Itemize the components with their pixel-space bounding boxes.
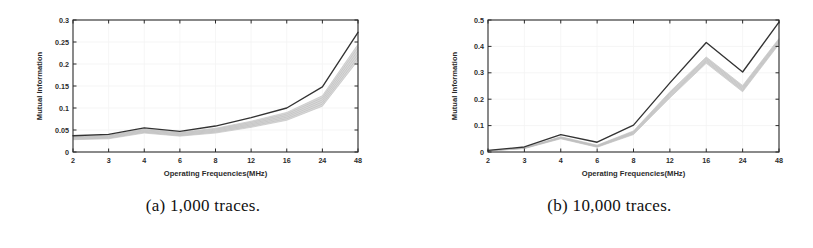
y-tick-label: 0.3 [474,68,484,77]
chart-b-svg: 00.10.20.30.40.52346812162448Operating F… [406,0,813,190]
x-tick-label: 24 [739,156,747,165]
x-axis-title: Operating Frequencies(MHz) [582,169,686,178]
caption-panel-a: (a) 1,000 traces. [0,196,406,216]
chart-panel-a: 00.050.10.150.20.250.32346812162448Opera… [0,0,406,190]
x-tick-label: 48 [775,156,783,165]
x-tick-label: 48 [354,156,362,165]
y-tick-label: 0.5 [474,16,484,25]
x-tick-label: 6 [178,156,182,165]
x-tick-label: 24 [318,156,326,165]
y-tick-label: 0.1 [59,104,69,113]
x-tick-label: 8 [214,156,218,165]
y-tick-label: 0 [65,148,69,157]
x-tick-label: 4 [559,156,563,165]
figure-panel-a: 00.050.10.150.20.250.32346812162448Opera… [0,0,406,248]
chart-a-svg: 00.050.10.150.20.250.32346812162448Opera… [0,0,406,190]
y-tick-label: 0.25 [55,38,69,47]
x-tick-label: 4 [142,156,146,165]
x-tick-label: 6 [595,156,599,165]
x-tick-label: 16 [283,156,291,165]
x-axis: 2346812162448 [486,20,783,165]
x-tick-label: 8 [632,156,636,165]
y-tick-label: 0.1 [474,121,484,130]
x-tick-label: 2 [71,156,75,165]
chart-panel-b: 00.10.20.30.40.52346812162448Operating F… [406,0,813,190]
x-tick-label: 3 [522,156,526,165]
figure-panel-b: 00.10.20.30.40.52346812162448Operating F… [406,0,813,248]
y-tick-label: 0 [480,148,484,157]
y-tick-label: 0.15 [55,82,69,91]
y-axis-title: Mutual Information [35,51,44,120]
figure-two-panel: 00.050.10.150.20.250.32346812162448Opera… [0,0,813,248]
x-axis-title: Operating Frequencies(MHz) [164,169,268,178]
y-tick-label: 0.4 [474,42,484,51]
x-tick-label: 12 [666,156,674,165]
caption-panel-b: (b) 10,000 traces. [406,196,813,216]
y-tick-label: 0.2 [59,60,69,69]
y-axis-title: Mutual Information [450,51,459,120]
x-tick-label: 2 [486,156,490,165]
x-tick-label: 3 [107,156,111,165]
x-tick-label: 16 [702,156,710,165]
y-tick-label: 0.05 [55,126,69,135]
x-tick-label: 12 [247,156,255,165]
y-tick-label: 0.2 [474,95,484,104]
y-tick-label: 0.3 [59,16,69,25]
